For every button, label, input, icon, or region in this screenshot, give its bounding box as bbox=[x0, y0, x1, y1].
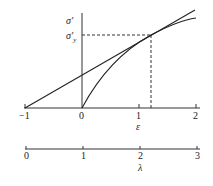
epsilon-tick-label: 0 bbox=[79, 111, 84, 121]
lambda-tick-label: 0 bbox=[24, 151, 29, 161]
lambda-tick-label: 1 bbox=[81, 151, 86, 161]
lambda-tick-label: 2 bbox=[138, 151, 143, 161]
epsilon-tick-label: 2 bbox=[193, 111, 198, 121]
epsilon-axis-label: ε bbox=[136, 122, 140, 132]
lambda-tick-label: 3 bbox=[195, 151, 200, 161]
lambda-axis-label: λ bbox=[138, 163, 142, 173]
yield-subscript: y bbox=[73, 36, 76, 44]
stress-axis-label: σ′ bbox=[66, 16, 73, 26]
epsilon-tick-label: 1 bbox=[136, 111, 141, 121]
stress-strain-curve bbox=[82, 18, 196, 108]
epsilon-tick-label: −1 bbox=[19, 111, 30, 121]
diagram-canvas bbox=[0, 0, 213, 186]
tangent-line bbox=[25, 10, 195, 108]
yield-stress-label: σ′y bbox=[66, 31, 76, 45]
